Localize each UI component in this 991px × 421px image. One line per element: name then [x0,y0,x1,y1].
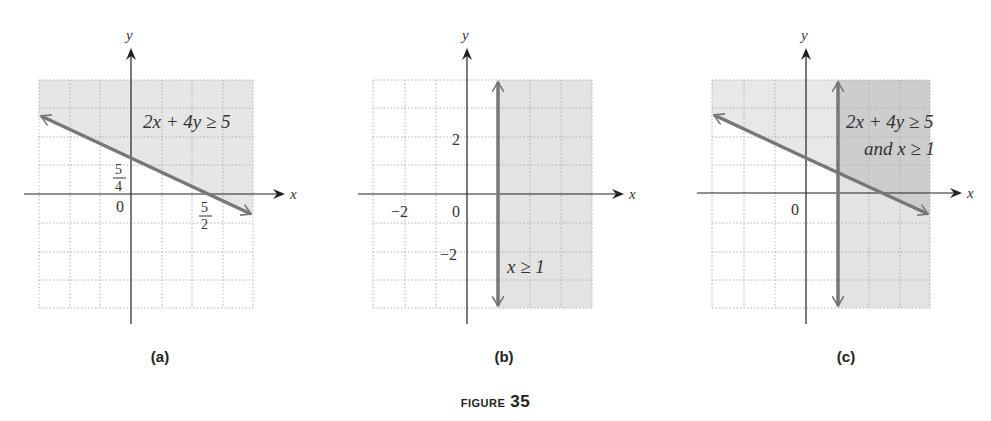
panel-caption-b: (b) [494,348,513,365]
origin-label: 0 [116,198,124,215]
x-axis-label: x [966,185,974,201]
x-axis-label: x [628,186,636,202]
tick-label-y-neg2: −2 [440,246,457,263]
graph-panel-a: y x 2x + 4y ≥ 5 0 5 4 5 2 [0,0,330,340]
origin-label: 0 [791,201,799,218]
x-intercept-label: 5 2 [199,200,212,232]
inequality-label-line1: 2x + 4y ≥ 5 [846,111,934,132]
svg-text:5: 5 [115,162,122,177]
tick-label-y-2: 2 [452,131,460,148]
x-axis-label: x [289,186,297,202]
y-intercept-label: 5 4 [113,162,126,194]
y-axis-label: y [124,27,133,43]
figure-number: 35 [510,392,530,411]
tick-label-x-neg2: −2 [391,203,408,220]
origin-label: 0 [452,203,460,220]
figure-label: FIGURE [461,397,506,409]
y-axis-label: y [460,27,469,43]
svg-text:2: 2 [201,217,208,232]
svg-text:4: 4 [115,179,122,194]
svg-text:5: 5 [201,200,208,215]
y-axis-label: y [799,27,808,43]
inequality-label: 2x + 4y ≥ 5 [143,111,231,132]
figure-title: FIGURE 35 [461,392,530,412]
panel-caption-a: (a) [151,348,169,365]
inequality-label-line2: and x ≥ 1 [864,138,935,159]
graph-panel-b: y x −2 0 2 −2 x ≥ 1 [330,0,660,340]
graph-panel-c: y x 0 2x + 4y ≥ 5 and x ≥ 1 [660,0,991,340]
panel-caption-c: (c) [837,348,855,365]
inequality-label: x ≥ 1 [506,256,545,277]
